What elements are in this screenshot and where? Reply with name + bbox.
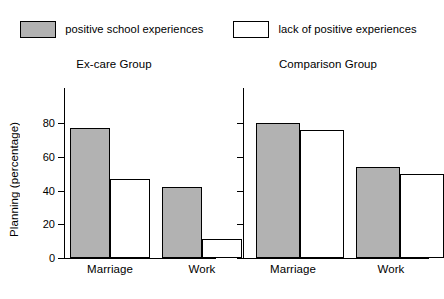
bar-ex-care-marriage-lack[interactable]: [110, 179, 150, 258]
plot-area-ex-care-group: Planning (percentage) 0 20 40 60 80: [8, 80, 220, 280]
panel-title-ex-care-group: Ex-care Group: [8, 58, 220, 70]
x-category-label-work-right: Work: [343, 263, 439, 276]
panel-title-comparison-group: Comparison Group: [222, 58, 434, 70]
chart-legend: positive school experiences lack of posi…: [0, 14, 437, 44]
bar-comparison-work-lack[interactable]: [400, 174, 444, 258]
y-tick-label-60: 60: [43, 151, 55, 164]
legend-item-lack-of-positive-experiences: lack of positive experiences: [233, 21, 416, 38]
y-axis-label: Planning (percentage): [6, 104, 22, 254]
legend-swatch-empty-icon: [233, 21, 269, 38]
plot-area-comparison-group: Marriage Work: [222, 80, 434, 280]
legend-label-lack-of-positive-experiences: lack of positive experiences: [278, 23, 416, 35]
bar-ex-care-marriage-positive[interactable]: [70, 128, 110, 258]
bars-layer-ex-care-group: [64, 88, 216, 258]
y-tick-label-20: 20: [43, 218, 55, 231]
x-category-label-marriage-right: Marriage: [243, 263, 343, 276]
bar-comparison-marriage-positive[interactable]: [256, 123, 300, 258]
bar-comparison-marriage-lack[interactable]: [300, 130, 344, 258]
panel-ex-care-group: Ex-care Group Planning (percentage) 0 20…: [8, 58, 220, 290]
y-tick-0: 0: [58, 258, 64, 259]
y-tick-0-right: [237, 258, 243, 259]
legend-item-positive-school-experiences: positive school experiences: [20, 21, 203, 38]
legend-swatch-filled-icon: [20, 21, 56, 38]
y-tick-label-40: 40: [43, 185, 55, 198]
y-tick-label-80: 80: [43, 117, 55, 130]
x-category-label-marriage: Marriage: [64, 263, 156, 276]
panel-comparison-group: Comparison Group Marriage Work: [222, 58, 434, 290]
legend-label-positive-school-experiences: positive school experiences: [65, 23, 203, 35]
bar-comparison-work-positive[interactable]: [356, 167, 400, 258]
bars-layer-comparison-group: [243, 88, 429, 258]
y-tick-label-0: 0: [49, 252, 55, 265]
bar-ex-care-work-positive[interactable]: [162, 187, 202, 258]
x-axis-line: [64, 258, 216, 259]
x-axis-line-right: [243, 258, 429, 259]
